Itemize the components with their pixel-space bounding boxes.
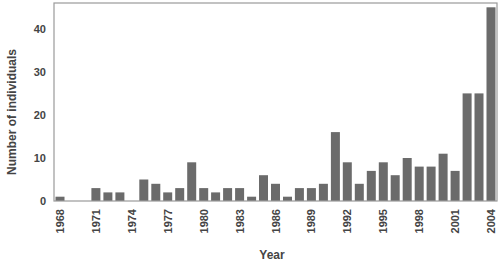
- y-tick-label: 20: [34, 109, 46, 121]
- bar-2003: [475, 93, 484, 201]
- x-tick-label: 2001: [449, 209, 461, 233]
- x-tick-label: 2004: [485, 208, 497, 233]
- bar-2001: [451, 171, 460, 201]
- bar-1992: [343, 162, 352, 201]
- bar-1994: [367, 171, 376, 201]
- bar-1983: [235, 188, 244, 201]
- bar-1996: [391, 175, 400, 201]
- bar-1981: [211, 192, 220, 201]
- bar-1980: [199, 188, 208, 201]
- x-tick-label: 1974: [126, 208, 138, 233]
- bar-1973: [115, 192, 124, 201]
- bar-2004: [487, 7, 496, 201]
- bar-1976: [151, 184, 160, 201]
- bar-1986: [271, 184, 280, 201]
- bar-2000: [439, 154, 448, 201]
- x-tick-label: 1968: [54, 209, 66, 233]
- bar-1968: [56, 197, 65, 201]
- bar-2002: [463, 93, 472, 201]
- bar-1999: [427, 167, 436, 201]
- bar-1987: [283, 197, 292, 201]
- bar-1971: [91, 188, 100, 201]
- bar-1993: [355, 184, 364, 201]
- bar-1972: [103, 192, 112, 201]
- bar-1990: [319, 184, 328, 201]
- bars-group: [56, 7, 496, 201]
- bar-1977: [163, 192, 172, 201]
- bar-1985: [259, 175, 268, 201]
- x-axis-ticks: 1968197119741977198019831986198919921995…: [54, 208, 497, 233]
- x-tick-label: 1983: [234, 209, 246, 233]
- y-tick-label: 30: [34, 66, 46, 78]
- x-tick-label: 1986: [270, 209, 282, 233]
- x-tick-label: 1971: [90, 209, 102, 233]
- x-tick-label: 1995: [377, 209, 389, 233]
- bar-1975: [139, 180, 148, 202]
- y-tick-label: 10: [34, 152, 46, 164]
- bar-1978: [175, 188, 184, 201]
- x-tick-label: 1992: [341, 209, 353, 233]
- y-tick-label: 40: [34, 23, 46, 35]
- bar-1989: [307, 188, 316, 201]
- bar-1998: [415, 167, 424, 201]
- y-axis-ticks: 010203040: [34, 23, 46, 207]
- bar-1991: [331, 132, 340, 201]
- bar-chart: 010203040 196819711974197719801983198619…: [0, 0, 503, 272]
- x-tick-label: 1989: [305, 209, 317, 233]
- bar-1979: [187, 162, 196, 201]
- x-tick-label: 1977: [162, 209, 174, 233]
- bar-1984: [247, 197, 256, 201]
- bar-1982: [223, 188, 232, 201]
- x-tick-label: 1980: [198, 209, 210, 233]
- x-axis-label: Year: [259, 248, 285, 262]
- y-axis-label: Number of individuals: [5, 49, 19, 175]
- bar-1988: [295, 188, 304, 201]
- x-tick-label: 1998: [413, 209, 425, 233]
- bar-1995: [379, 162, 388, 201]
- y-tick-label: 0: [40, 195, 46, 207]
- bar-1997: [403, 158, 412, 201]
